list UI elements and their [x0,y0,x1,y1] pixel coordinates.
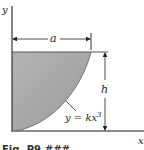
curve-leader [66,101,76,111]
dimension-a-label: a [50,32,57,45]
curve-equation-exponent: 3 [97,111,102,119]
x-axis-label: x [138,135,144,146]
diagram: a h y = kx3 y x Fig. P9.### [0,0,144,150]
figure-caption: Fig. P9.### [2,144,70,150]
y-axis-label: y [1,4,8,15]
curve-equation-base: y = kx [64,112,97,123]
curve-equation: y = kx3 [64,111,102,123]
dimension-h-label: h [101,83,108,96]
